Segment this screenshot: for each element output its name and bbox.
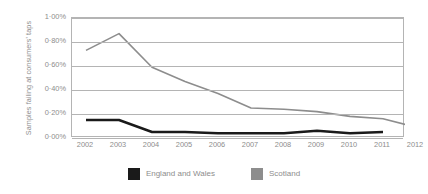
gridline xyxy=(72,66,403,67)
y-axis-tick-label: 0·80% xyxy=(32,37,66,45)
x-axis-tick-labels: 2002200320042005200620072008200920102011… xyxy=(71,140,404,152)
chart-legend: England and WalesScotland xyxy=(0,166,428,182)
line-chart: Samples failing at consumers' taps 0·00%… xyxy=(0,0,428,194)
legend-item-england-and-wales[interactable]: England and Wales xyxy=(128,168,215,180)
y-axis-tick-label: 0·60% xyxy=(32,61,66,69)
series-line-england-and-wales xyxy=(86,120,383,133)
y-axis-tick-label: 0·40% xyxy=(32,85,66,93)
gridline xyxy=(72,18,403,19)
gridline xyxy=(72,90,403,91)
legend-swatch-england-and-wales xyxy=(128,168,140,180)
gridline xyxy=(72,138,403,139)
legend-item-scotland[interactable]: Scotland xyxy=(251,168,300,180)
legend-label-england-and-wales: England and Wales xyxy=(146,168,215,180)
y-axis-tick-label: 1·00% xyxy=(32,13,66,21)
legend-swatch-scotland xyxy=(251,168,263,180)
y-axis-tick-labels: 0·00%0·20%0·40%0·60%0·80%1·00% xyxy=(30,0,66,194)
gridline xyxy=(72,42,403,43)
gridline xyxy=(72,114,403,115)
x-axis-tick-label: 2012 xyxy=(395,140,428,150)
legend-label-scotland: Scotland xyxy=(269,168,300,180)
plot-area xyxy=(71,17,404,137)
plot-svg xyxy=(72,18,405,138)
y-axis-tick-label: 0·20% xyxy=(32,109,66,117)
y-axis-tick-label: 0·00% xyxy=(32,133,66,141)
